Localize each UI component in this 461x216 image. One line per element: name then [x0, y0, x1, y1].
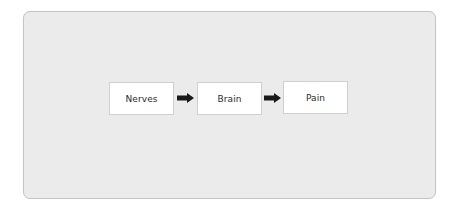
diagram-panel: Nerves Brain Pain: [23, 11, 436, 199]
node-nerves: Nerves: [109, 82, 174, 115]
arrow-right-icon: [177, 93, 194, 103]
node-brain: Brain: [197, 82, 262, 115]
node-nerves-label: Nerves: [125, 94, 157, 104]
node-pain: Pain: [283, 81, 348, 114]
arrow-right-icon: [264, 93, 281, 103]
node-pain-label: Pain: [306, 93, 325, 103]
node-brain-label: Brain: [217, 94, 241, 104]
